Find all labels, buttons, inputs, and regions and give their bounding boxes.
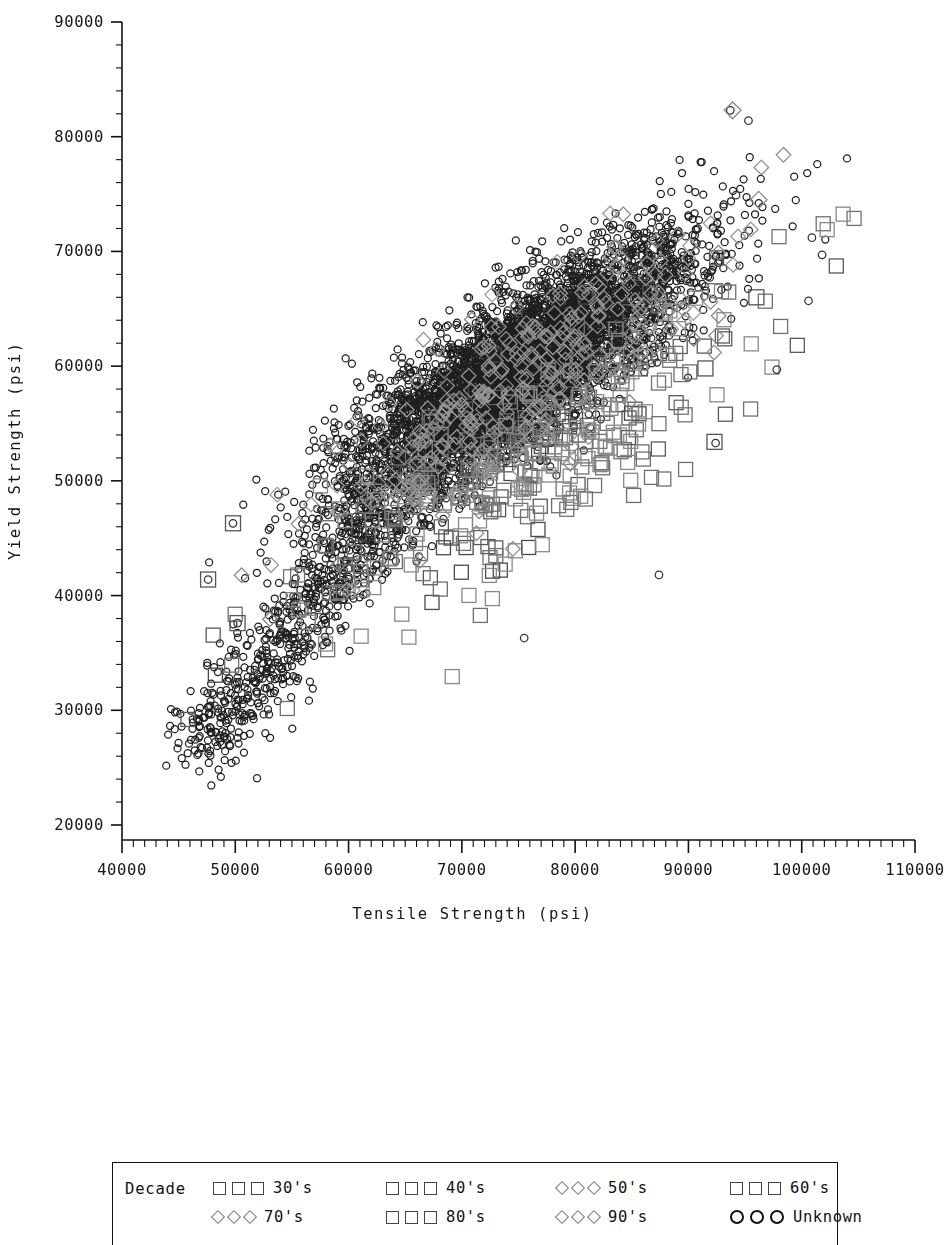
diamond-glyph	[555, 1210, 569, 1224]
legend-item-label: 30's	[273, 1179, 313, 1197]
square-glyph	[424, 1211, 437, 1224]
square-glyph	[749, 1182, 762, 1195]
diamond-glyph	[571, 1210, 585, 1224]
diamond-glyph	[571, 1181, 585, 1195]
x-tick-label: 110000	[885, 861, 945, 879]
circle-glyph	[770, 1210, 784, 1224]
square-marker-icon	[386, 1211, 437, 1224]
y-tick-label: 70000	[0, 242, 104, 260]
diamond-glyph	[587, 1210, 601, 1224]
diamond-glyph	[211, 1210, 225, 1224]
square-glyph	[405, 1211, 418, 1224]
square-glyph	[251, 1182, 264, 1195]
legend-item-label: 80's	[446, 1208, 486, 1226]
y-tick-label: 80000	[0, 128, 104, 146]
legend: Decade 30's40's50's60's70's80's90'sUnkno…	[112, 1162, 838, 1245]
x-tick-label: 50000	[210, 861, 260, 879]
circle-glyph	[730, 1210, 744, 1224]
legend-item-label: 60's	[790, 1179, 830, 1197]
square-marker-icon	[213, 1182, 264, 1195]
circle-marker-icon	[730, 1210, 784, 1224]
diamond-marker-icon	[213, 1212, 255, 1222]
legend-item-label: 90's	[608, 1208, 648, 1226]
y-tick-label: 40000	[0, 587, 104, 605]
diamond-glyph	[555, 1181, 569, 1195]
y-tick-label: 20000	[0, 816, 104, 834]
legend-item-label: 40's	[446, 1179, 486, 1197]
square-glyph	[730, 1182, 743, 1195]
x-tick-label: 70000	[437, 861, 487, 879]
square-marker-icon	[730, 1182, 781, 1195]
legend-item-70s[interactable]: 70's	[213, 1206, 304, 1228]
diamond-glyph	[227, 1210, 241, 1224]
legend-item-label: Unknown	[793, 1208, 863, 1226]
legend-title: Decade	[125, 1180, 186, 1198]
square-marker-icon	[386, 1182, 437, 1195]
legend-item-label: 70's	[264, 1208, 304, 1226]
axes-layer	[0, 0, 945, 960]
x-tick-label: 60000	[324, 861, 374, 879]
legend-item-unknown[interactable]: Unknown	[730, 1206, 863, 1228]
square-glyph	[232, 1182, 245, 1195]
x-tick-label: 90000	[664, 861, 714, 879]
legend-item-60s[interactable]: 60's	[730, 1177, 830, 1199]
square-glyph	[424, 1182, 437, 1195]
legend-item-label: 50's	[608, 1179, 648, 1197]
y-tick-label: 30000	[0, 701, 104, 719]
legend-item-40s[interactable]: 40's	[386, 1177, 486, 1199]
square-glyph	[405, 1182, 418, 1195]
legend-item-90s[interactable]: 90's	[557, 1206, 648, 1228]
x-tick-label: 40000	[97, 861, 147, 879]
x-tick-label: 100000	[772, 861, 832, 879]
legend-item-30s[interactable]: 30's	[213, 1177, 313, 1199]
diamond-marker-icon	[557, 1183, 599, 1193]
square-glyph	[768, 1182, 781, 1195]
x-tick-label: 80000	[550, 861, 600, 879]
circle-glyph	[750, 1210, 764, 1224]
diamond-marker-icon	[557, 1212, 599, 1222]
x-axis-title: Tensile Strength (psi)	[0, 905, 945, 923]
y-axis-title: Yield Strength (psi)	[6, 526, 24, 560]
scatter-plot-area: 4000050000600007000080000900001000001100…	[0, 0, 945, 960]
square-glyph	[386, 1211, 399, 1224]
square-glyph	[213, 1182, 226, 1195]
diamond-glyph	[587, 1181, 601, 1195]
y-tick-label: 90000	[0, 13, 104, 31]
legend-item-50s[interactable]: 50's	[557, 1177, 648, 1199]
diamond-glyph	[243, 1210, 257, 1224]
square-glyph	[386, 1182, 399, 1195]
legend-item-80s[interactable]: 80's	[386, 1206, 486, 1228]
chart-root: 4000050000600007000080000900001000001100…	[0, 0, 945, 1245]
